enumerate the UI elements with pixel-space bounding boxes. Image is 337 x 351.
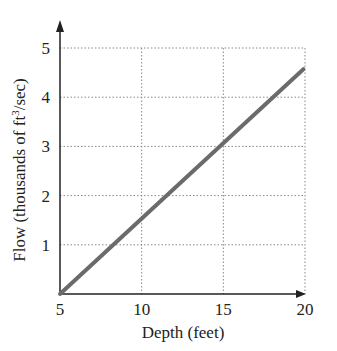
x-tick-label: 10 — [133, 300, 150, 319]
x-axis-arrow-icon — [296, 290, 306, 298]
y-tick-label: 3 — [42, 137, 51, 156]
x-tick-label: 5 — [56, 300, 65, 319]
y-tick-labels: 12345 — [42, 39, 51, 255]
flow-line — [60, 69, 303, 294]
y-tick-label: 4 — [42, 88, 51, 107]
x-tick-labels: 5101520 — [56, 300, 314, 319]
y-tick-label: 1 — [42, 236, 51, 255]
flow-vs-depth-chart: 5101520 12345 Depth (feet) Flow (thousan… — [0, 0, 337, 351]
axes — [56, 20, 306, 298]
y-tick-label: 5 — [42, 39, 51, 58]
x-axis-label: Depth (feet) — [142, 323, 225, 342]
x-tick-label: 15 — [215, 300, 232, 319]
y-tick-label: 2 — [42, 187, 51, 206]
y-axis-label: Flow (thousands of ft3/sec) — [9, 78, 29, 262]
grid-lines — [60, 48, 305, 294]
x-tick-label: 20 — [297, 300, 314, 319]
y-axis-arrow-icon — [56, 20, 64, 32]
